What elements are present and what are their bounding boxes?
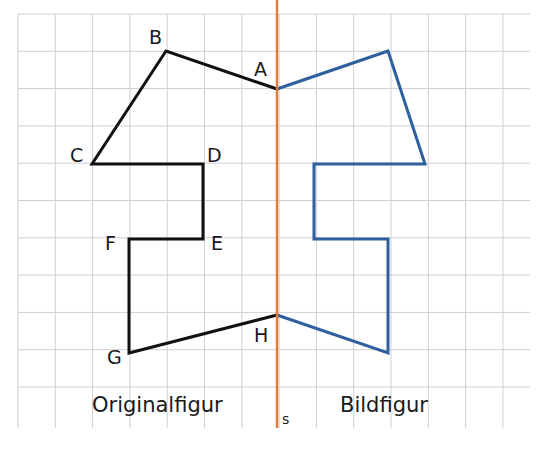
caption-original: Originalfigur: [92, 393, 223, 417]
grid-lines: [18, 14, 530, 428]
original-figure: [92, 51, 277, 353]
reflection-diagram: s BACDFEGH Originalfigur Bildfigur: [0, 0, 544, 452]
vertex-label-g: G: [107, 346, 122, 368]
vertex-label-b: B: [149, 26, 162, 48]
vertex-label-a: A: [254, 58, 267, 80]
vertex-label-h: H: [254, 324, 268, 346]
vertex-label-e: E: [211, 232, 223, 254]
vertex-label-f: F: [105, 232, 116, 254]
image-figure: [277, 51, 425, 353]
axis-label: s: [282, 411, 289, 427]
vertex-label-c: C: [70, 144, 83, 166]
caption-image: Bildfigur: [340, 393, 428, 417]
vertex-label-d: D: [207, 144, 222, 166]
